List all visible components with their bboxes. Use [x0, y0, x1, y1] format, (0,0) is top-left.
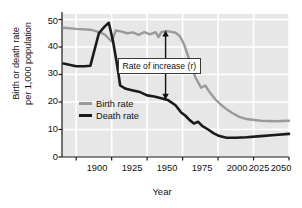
legend-swatch-death-icon — [79, 114, 92, 117]
chart-legend: Birth rate Death rate — [79, 98, 139, 122]
legend-label-birth-rate: Birth rate — [96, 98, 133, 110]
legend-swatch-birth-icon — [79, 102, 92, 105]
rate-of-increase-label: Rate of increase (r) — [123, 61, 197, 71]
chart-plot-svg — [0, 0, 302, 208]
chart-figure: Birth or death rate per 1,000 population… — [0, 0, 302, 208]
legend-item-birth-rate: Birth rate — [79, 98, 139, 110]
legend-item-death-rate: Death rate — [79, 110, 139, 122]
legend-label-death-rate: Death rate — [96, 110, 139, 122]
rate-of-increase-callout: Rate of increase (r) — [118, 58, 202, 74]
